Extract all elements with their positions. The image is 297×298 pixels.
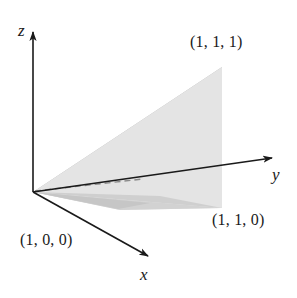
- x-axis-label: x: [140, 266, 148, 283]
- vertex-label-1-0-0: (1, 0, 0): [20, 232, 72, 248]
- y-axis-label: y: [272, 166, 280, 183]
- solid-region-diagram: [0, 0, 297, 298]
- z-axis-label: z: [18, 22, 25, 39]
- vertex-label-1-1-0: (1, 1, 0): [212, 212, 264, 228]
- vertex-label-1-1-1: (1, 1, 1): [190, 34, 242, 50]
- figure-canvas: z x y (1, 1, 1) (1, 1, 0) (1, 0, 0): [0, 0, 297, 298]
